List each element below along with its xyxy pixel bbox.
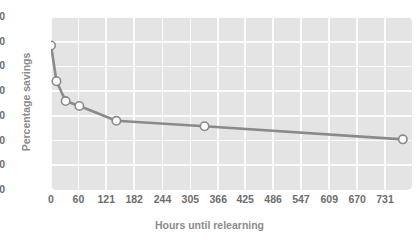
x-axis-tick-label: 486 xyxy=(264,193,282,205)
forgetting-curve-chart: Percentage savings Hours until relearnin… xyxy=(0,0,419,245)
data-point-marker xyxy=(112,117,120,125)
data-point-marker xyxy=(52,77,60,85)
y-axis-tick-text: 60 xyxy=(0,35,5,47)
series-line xyxy=(51,45,403,139)
data-point-marker xyxy=(51,41,55,49)
x-axis-tick-label: 244 xyxy=(154,193,172,205)
x-axis-tick-label: 0 xyxy=(48,193,54,205)
y-axis-tick-text: 70 xyxy=(0,10,5,22)
plot-area xyxy=(51,17,412,190)
x-axis-tick-label: 121 xyxy=(98,193,116,205)
x-axis-tick-label: 305 xyxy=(182,193,200,205)
y-axis-title: Percentage savings xyxy=(20,27,32,177)
x-axis-tick-label: 547 xyxy=(292,193,310,205)
x-axis-title: Hours until relearning xyxy=(0,219,419,231)
data-point-marker xyxy=(61,97,69,105)
data-point-marker xyxy=(399,135,407,143)
y-axis-tick-text: 10 xyxy=(0,158,5,170)
series-layer xyxy=(51,17,412,190)
data-point-marker xyxy=(75,102,83,110)
y-axis-tick-text: 30 xyxy=(0,109,5,121)
x-axis-tick-label: 670 xyxy=(348,193,366,205)
x-axis-tick-label: 731 xyxy=(376,193,394,205)
x-axis-tick-label: 425 xyxy=(236,193,254,205)
x-axis-tick-label: 60 xyxy=(73,193,85,205)
x-axis-tick-label: 366 xyxy=(209,193,227,205)
y-axis-tick-text: 40 xyxy=(0,84,5,96)
y-axis-tick-text: 0 xyxy=(0,183,5,195)
x-axis-tick-label: 182 xyxy=(125,193,143,205)
y-axis-tick-text: 20 xyxy=(0,134,5,146)
y-axis-tick-text: 50 xyxy=(0,59,5,71)
x-axis-tick-label: 609 xyxy=(321,193,339,205)
data-point-marker xyxy=(200,122,208,130)
